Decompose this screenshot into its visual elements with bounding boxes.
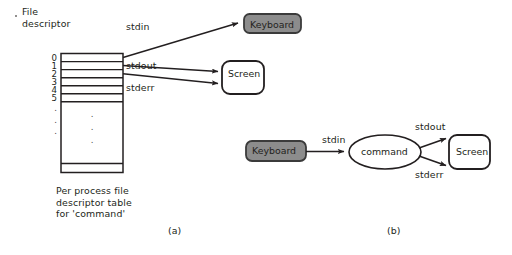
edge-label-stdout-b: stdout <box>415 121 445 133</box>
fd-index-column: 0 1 2 3 4 5 <box>45 54 57 102</box>
bullet-dot-icon <box>15 15 17 17</box>
fd-cell-dot-1: . <box>86 108 98 121</box>
node-label-screen-b: Screen <box>456 146 488 157</box>
arrow-stderr-b <box>419 156 446 166</box>
edge-label-stdin-b: stdin <box>322 134 346 146</box>
stream-label-stderr-a: stderr <box>126 82 154 94</box>
fd-cell-continuation-dots: . . . <box>86 108 98 147</box>
fd-cell-dot-2: . <box>86 121 98 134</box>
figure-label-b: (b) <box>387 225 401 237</box>
edge-label-stderr-b: stderr <box>415 169 443 181</box>
file-descriptor-title: File descriptor <box>22 6 70 29</box>
node-label-keyboard-b: Keyboard <box>252 145 296 156</box>
fd-index-dot-1: . <box>45 103 57 115</box>
stream-label-stdin-a: stdin <box>126 21 150 33</box>
diagram-canvas: File descriptor 0 1 2 3 4 5 . . . . . . … <box>0 0 512 255</box>
stream-label-stdout-a: stdout <box>126 60 156 72</box>
fd-index-continuation-dots: . . . <box>45 103 57 138</box>
figure-caption-a: Per process file descriptor table for 'c… <box>56 185 132 220</box>
fd-cell-dot-3: . <box>86 134 98 147</box>
fd-index-dot-3: . <box>45 126 57 138</box>
device-label-keyboard-a: Keyboard <box>250 19 294 30</box>
node-label-command-b: command <box>361 146 408 157</box>
fd-index-5: 5 <box>45 94 57 102</box>
figure-label-a: (a) <box>168 225 181 237</box>
arrow-stdout-b <box>419 139 446 149</box>
device-label-screen-a: Screen <box>228 68 260 79</box>
fd-index-dot-2: . <box>45 115 57 127</box>
